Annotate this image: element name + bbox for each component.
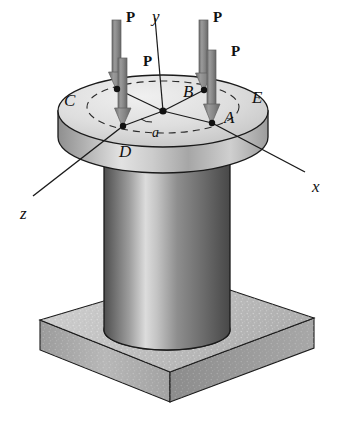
point-label-C: C xyxy=(64,92,75,109)
force-arrow-to-D-shaft xyxy=(118,58,127,110)
point-dot-C xyxy=(114,86,120,92)
point-label-D: D xyxy=(119,143,131,160)
point-dot-B xyxy=(201,87,207,93)
point-label-B: B xyxy=(183,83,193,100)
point-label-A: A xyxy=(224,109,234,126)
engineering-figure: P P P P y x z A B C D E a xyxy=(0,0,338,429)
force-label-P-to-D: P xyxy=(143,54,152,69)
figure-canvas xyxy=(0,0,338,429)
force-arrow-to-B-shaft xyxy=(199,20,208,77)
axis-label-x: x xyxy=(312,178,320,195)
cylinder-body xyxy=(104,147,230,350)
force-arrow-to-A-shaft xyxy=(207,50,216,106)
force-label-P-to-A: P xyxy=(231,44,240,59)
force-label-P-to-B: P xyxy=(213,10,222,25)
axis-label-y: y xyxy=(152,8,160,25)
point-dot-center xyxy=(159,107,166,114)
force-label-P-to-C: P xyxy=(126,10,135,25)
point-dot-A xyxy=(209,120,215,126)
point-dot-D xyxy=(120,123,126,129)
cylinder-shaft xyxy=(104,147,230,350)
axis-label-z: z xyxy=(20,205,27,222)
point-label-E: E xyxy=(252,89,262,106)
flange-disk xyxy=(58,75,268,173)
dimension-label-a: a xyxy=(152,126,159,140)
